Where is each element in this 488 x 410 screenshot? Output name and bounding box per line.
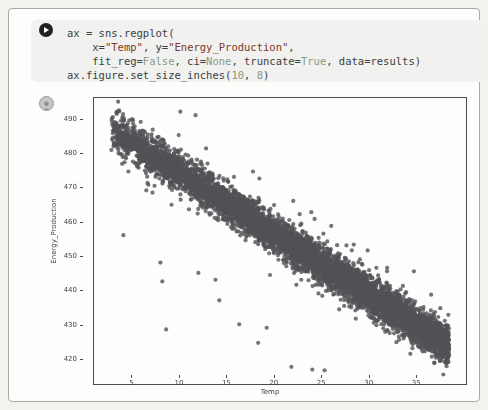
code-token-plain: )	[263, 69, 269, 81]
code-token-keyword: None	[206, 55, 231, 67]
code-token-plain: ,	[244, 69, 257, 81]
scatter-points-canvas	[94, 98, 466, 384]
code-token-plain: , data=results)	[326, 55, 421, 67]
code-token-plain: , ci=	[174, 55, 206, 67]
notebook-frame: ax = sns.regplot( x="Temp", y="Energy_Pr…	[8, 8, 480, 402]
plot-area	[93, 97, 467, 385]
run-cell-button[interactable]	[39, 23, 53, 37]
code-line: fit_reg=False, ci=None, truncate=True, d…	[67, 54, 421, 68]
code-line: ax.figure.set_size_inches(10, 8)	[67, 68, 421, 82]
play-icon	[44, 27, 49, 33]
code-token-keyword: False	[143, 55, 175, 67]
code-token-string: "Temp"	[105, 41, 143, 53]
code-token-plain: x=	[67, 41, 105, 53]
code-token-string: "Energy_Production"	[168, 41, 288, 53]
code-token-number: 10	[231, 69, 244, 81]
code-token-keyword: True	[301, 55, 326, 67]
screenshot-page: ax = sns.regplot( x="Temp", y="Energy_Pr…	[0, 0, 488, 410]
code-token-plain: ax = sns.regplot(	[67, 27, 174, 39]
code-editor[interactable]: ax = sns.regplot( x="Temp", y="Energy_Pr…	[67, 26, 421, 82]
code-line: x="Temp", y="Energy_Production",	[67, 40, 421, 54]
code-token-plain: fit_reg=	[67, 55, 143, 67]
code-line: ax = sns.regplot(	[67, 26, 421, 40]
code-token-plain: , y=	[143, 41, 168, 53]
code-token-plain: ax.figure.set_size_inches(	[67, 69, 231, 81]
code-token-plain: , truncate=	[231, 55, 301, 67]
user-avatar-icon	[39, 96, 54, 111]
code-cell[interactable]: ax = sns.regplot( x="Temp", y="Energy_Pr…	[31, 20, 487, 82]
code-token-plain: ,	[288, 41, 294, 53]
person-glyph	[40, 99, 53, 111]
